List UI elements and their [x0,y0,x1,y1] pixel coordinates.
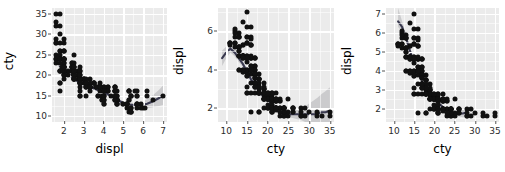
gridline-minor-horizontal [52,24,167,25]
smooth-overlay-panel-2 [218,8,334,122]
data-point [492,110,497,115]
data-point [261,96,266,101]
data-point [151,97,156,102]
data-point [245,85,250,90]
gridline-major-vertical [330,8,331,122]
y-tick-label: 4 [207,65,213,75]
x-tick-label: 7 [160,126,166,136]
data-point [298,110,303,115]
x-tick-label: 25 [283,126,294,136]
data-point [240,19,245,24]
gridline-minor-horizontal [386,61,499,62]
y-axis-title-panel-3: displ [338,0,356,122]
data-point [232,27,237,32]
gridline-minor-vertical [113,8,114,122]
data-point [480,110,485,115]
gridline-minor-horizontal [52,106,167,107]
data-point [228,40,233,45]
data-point [253,75,258,80]
data-point [452,97,457,102]
gridline-minor-vertical [485,8,486,122]
gridline-minor-horizontal [386,23,499,24]
data-point [408,21,413,26]
y-axis-tick-labels-panel-1: 101520253035 [18,0,52,122]
y-tick-label: 30 [36,29,47,39]
data-point [236,67,241,72]
gridline-major-vertical [394,8,395,122]
gridline-major-vertical [309,8,310,122]
y-tick-label: 35 [36,9,47,19]
x-tick-label: 20 [429,126,440,136]
data-point [71,77,76,82]
gridline-minor-vertical [299,8,300,122]
data-point [61,48,66,53]
x-tick-label: 15 [409,126,420,136]
data-point [121,101,126,106]
y-tick-label: 2 [207,103,213,113]
gridline-minor-horizontal [386,80,499,81]
data-point [432,91,437,96]
data-point [286,96,291,101]
smooth-overlay-panel-3 [386,8,499,122]
data-point [57,81,62,86]
y-tick-label: 25 [36,50,47,60]
x-axis-title-panel-2: cty [218,142,334,156]
gridline-minor-vertical [445,8,446,122]
data-point [57,32,62,37]
x-tick-label: 35 [324,126,335,136]
x-tick-label: 5 [121,126,127,136]
x-tick-label: 4 [101,126,107,136]
y-tick-label: 3 [375,85,381,95]
data-point [404,68,409,73]
data-point [71,65,76,70]
data-point [416,110,421,115]
data-point [61,56,66,61]
data-point [420,82,425,87]
data-point [113,97,118,102]
y-tick-label: 6 [207,26,213,36]
data-point [161,93,166,98]
y-tick-label: 5 [375,47,381,57]
plot-area-panel-2 [218,8,334,122]
data-point [77,73,82,78]
gridline-major-vertical [495,8,496,122]
data-point [404,36,409,41]
gridline-minor-vertical [94,8,95,122]
gridline-minor-vertical [153,8,154,122]
facet-scatter-figure: cty 101520253035 234567 displ displ 246 … [0,0,505,172]
data-point [143,105,148,110]
gridline-major-horizontal [52,14,167,15]
data-point [290,106,295,111]
data-point [245,9,250,14]
x-tick-label: 3 [81,126,87,136]
chart-panel-2: displ 246 101520253035 cty [170,0,338,172]
data-point [257,91,262,96]
data-point [307,110,312,115]
gridline-minor-vertical [320,8,321,122]
gridline-major-horizontal [52,116,167,117]
x-axis-tick-labels-panel-1: 234567 [52,122,167,138]
y-tick-label: 20 [36,70,47,80]
gridline-minor-vertical [278,8,279,122]
data-point [101,101,106,106]
x-axis-tick-labels-panel-3: 101520253035 [386,122,499,138]
gridline-minor-vertical [465,8,466,122]
y-tick-label: 7 [375,9,381,19]
gridline-major-horizontal [52,55,167,56]
data-point [236,34,241,39]
data-point [61,65,66,70]
y-tick-label: 15 [36,91,47,101]
y-tick-label: 4 [375,66,381,76]
x-tick-label: 35 [489,126,500,136]
gridline-minor-horizontal [218,12,334,13]
data-point [93,85,98,90]
data-point [265,91,270,96]
x-tick-label: 10 [221,126,232,136]
data-point [257,110,262,115]
x-tick-label: 30 [303,126,314,136]
data-point [87,85,92,90]
data-point [396,42,401,47]
data-point [404,49,409,54]
data-point [412,11,417,16]
x-tick-label: 6 [140,126,146,136]
